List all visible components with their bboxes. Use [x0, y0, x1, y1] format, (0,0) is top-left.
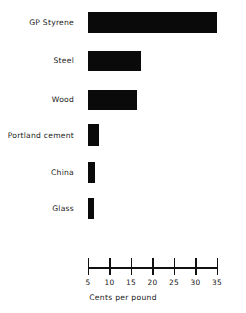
bar-chart: GP Styrene Steel Wood Portland cement Ch…	[0, 0, 246, 313]
axis-tick-label: 35	[207, 279, 227, 286]
axis-tick-label: 30	[186, 279, 206, 286]
bar-category-label: Wood	[0, 96, 74, 104]
axis-tick	[217, 258, 219, 275]
axis-tick-label: 10	[100, 279, 120, 286]
bar-rect	[88, 124, 99, 146]
bar-rect	[88, 162, 95, 183]
axis-tick	[152, 258, 154, 275]
bar-category-label: Portland cement	[0, 132, 74, 140]
x-axis: 5 10 15 20 25 30 35 Cents per pound	[0, 0, 246, 313]
axis-tick	[174, 258, 176, 275]
bar-category-label: China	[0, 169, 74, 177]
axis-tick-label: 15	[121, 279, 141, 286]
bar-category-label: GP Styrene	[0, 19, 74, 27]
bar-rect	[88, 51, 141, 71]
axis-tick	[88, 258, 90, 275]
axis-tick	[195, 258, 197, 275]
axis-tick-label: 25	[164, 279, 184, 286]
x-axis-caption: Cents per pound	[0, 294, 246, 302]
axis-tick-label: 5	[78, 279, 98, 286]
axis-tick	[131, 258, 133, 275]
axis-line	[88, 267, 218, 269]
axis-tick	[109, 258, 111, 275]
axis-tick-label: 20	[143, 279, 163, 286]
bar-rect	[88, 90, 137, 110]
bar-category-label: Steel	[0, 57, 74, 65]
bar-category-label: Glass	[0, 205, 74, 213]
bar-rect	[88, 12, 217, 33]
bar-rect	[88, 198, 94, 219]
